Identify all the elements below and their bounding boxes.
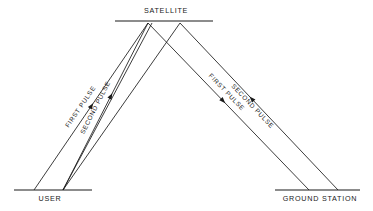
node-label-satellite: SATELLITE	[144, 6, 188, 15]
node-label-user: USER	[39, 194, 62, 203]
diagram-canvas: FIRST PULSESECOND PULSEFIRST PULSESECOND…	[0, 0, 373, 211]
baselines-layer	[14, 21, 360, 190]
node-labels-layer: SATELLITEUSERGROUND STATION	[39, 6, 358, 203]
node-label-ground-station: GROUND STATION	[283, 194, 358, 203]
arrowhead-ray-user-second-up	[107, 93, 112, 100]
satellite-pulse-diagram: FIRST PULSESECOND PULSEFIRST PULSESECOND…	[0, 0, 373, 211]
ray-sat-first-down	[148, 23, 309, 190]
